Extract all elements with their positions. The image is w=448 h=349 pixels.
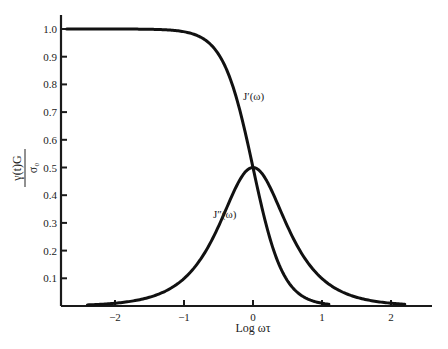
y-tick-label: 0.8: [43, 78, 57, 90]
x-axis-title: Log ωτ: [235, 321, 270, 335]
x-tick-label: −2: [109, 311, 121, 323]
y-tick-label: 0.4: [43, 189, 57, 201]
y-tick-label: 0.6: [43, 134, 57, 146]
y-tick-label: 0.3: [43, 217, 57, 229]
x-ticks: −2−1012: [109, 300, 394, 323]
x-tick-label: 1: [319, 311, 325, 323]
x-tick-label: −1: [178, 311, 190, 323]
y-tick-label: 0.9: [43, 51, 57, 63]
axes: [61, 15, 432, 306]
y-tick-label: 0.2: [43, 245, 57, 257]
y-tick-label: 0.5: [43, 162, 57, 174]
y-tick-label: 1.0: [43, 23, 57, 35]
y-axis-title-numerator: γ(t)G: [10, 155, 24, 182]
y-axis-title: γ(t)G σ₀: [10, 149, 40, 187]
y-tick-label: 0.1: [43, 272, 57, 284]
y-tick-label: 0.7: [43, 106, 57, 118]
y-ticks: 0.10.20.30.40.50.60.70.80.91.0: [43, 23, 67, 284]
jdoubleprime-label: J″(ω): [213, 208, 237, 221]
chart: 0.10.20.30.40.50.60.70.80.91.0 −2−1012 J…: [0, 0, 448, 349]
y-axis-title-denominator: σ₀: [26, 163, 40, 174]
jdoubleprime-curve: [87, 168, 404, 305]
jprime-label: J′(ω): [243, 90, 265, 103]
x-tick-label: 2: [388, 311, 394, 323]
